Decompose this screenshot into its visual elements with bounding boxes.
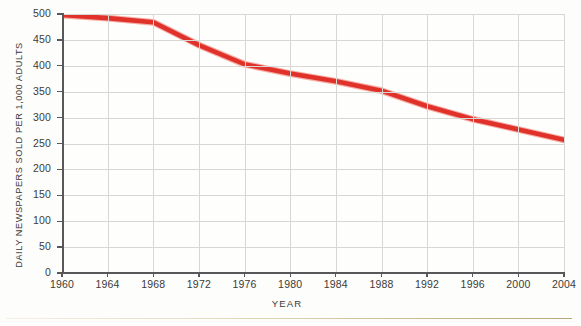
y-tick-mark <box>57 91 62 92</box>
x-tick-mark <box>518 272 519 277</box>
gridline-vertical <box>473 14 474 273</box>
x-tick-mark <box>381 272 382 277</box>
y-tick-mark <box>57 169 62 170</box>
gridline-vertical <box>153 14 154 273</box>
x-tick-mark <box>563 272 564 277</box>
gridline-vertical <box>199 14 200 273</box>
x-tick-mark <box>244 272 245 277</box>
gridline-horizontal <box>62 118 564 119</box>
gridline-horizontal <box>62 221 564 222</box>
x-tick-mark <box>107 272 108 277</box>
y-tick-label: 50 <box>5 240 51 252</box>
x-tick-label: 1968 <box>130 278 176 290</box>
y-tick-mark <box>57 117 62 118</box>
x-tick-label: 1980 <box>267 278 313 290</box>
gridline-vertical <box>290 14 291 273</box>
x-tick-label: 1996 <box>450 278 496 290</box>
gridline-vertical <box>564 14 565 273</box>
x-axis-line <box>62 272 565 274</box>
x-axis-title: YEAR <box>0 298 574 309</box>
y-tick-mark <box>57 39 62 40</box>
x-tick-label: 1964 <box>85 278 131 290</box>
x-tick-label: 1992 <box>404 278 450 290</box>
gridline-vertical <box>518 14 519 273</box>
gridline-vertical <box>427 14 428 273</box>
y-tick-label: 100 <box>5 214 51 226</box>
y-tick-label: 350 <box>5 85 51 97</box>
gridline-horizontal <box>62 247 564 248</box>
page-divider-rule <box>6 318 572 319</box>
x-tick-label: 2000 <box>495 278 541 290</box>
x-tick-label: 1988 <box>359 278 405 290</box>
x-tick-mark <box>153 272 154 277</box>
y-axis-line <box>62 13 64 274</box>
gridline-vertical <box>336 14 337 273</box>
x-tick-mark <box>61 272 62 277</box>
gridline-horizontal <box>62 144 564 145</box>
x-tick-mark <box>426 272 427 277</box>
y-tick-mark <box>57 195 62 196</box>
gridline-horizontal <box>62 40 564 41</box>
y-tick-mark <box>57 246 62 247</box>
y-tick-label: 450 <box>5 33 51 45</box>
y-tick-mark <box>57 65 62 66</box>
x-tick-label: 2004 <box>541 278 581 290</box>
y-tick-label: 500 <box>5 7 51 19</box>
gridline-vertical <box>382 14 383 273</box>
y-tick-mark <box>57 221 62 222</box>
y-tick-label: 0 <box>5 266 51 278</box>
plot-area <box>62 14 564 273</box>
x-tick-label: 1976 <box>222 278 268 290</box>
y-tick-label: 250 <box>5 137 51 149</box>
x-tick-mark <box>198 272 199 277</box>
y-tick-label: 300 <box>5 111 51 123</box>
y-tick-mark <box>57 13 62 14</box>
gridline-horizontal <box>62 169 564 170</box>
x-tick-mark <box>290 272 291 277</box>
gridline-horizontal <box>62 92 564 93</box>
gridline-vertical <box>245 14 246 273</box>
x-tick-mark <box>472 272 473 277</box>
x-tick-label: 1984 <box>313 278 359 290</box>
x-tick-label: 1960 <box>39 278 85 290</box>
y-tick-mark <box>57 143 62 144</box>
gridline-horizontal <box>62 14 564 15</box>
gridline-vertical <box>108 14 109 273</box>
gridline-horizontal <box>62 195 564 196</box>
y-tick-label: 200 <box>5 162 51 174</box>
x-tick-label: 1972 <box>176 278 222 290</box>
y-tick-label: 400 <box>5 59 51 71</box>
x-tick-mark <box>335 272 336 277</box>
gridline-horizontal <box>62 66 564 67</box>
y-tick-label: 150 <box>5 188 51 200</box>
